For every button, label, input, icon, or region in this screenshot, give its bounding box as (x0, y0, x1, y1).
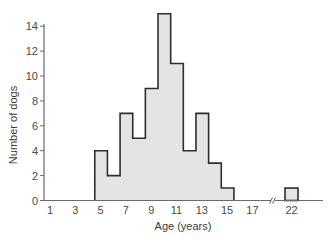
x-tick-label: 5 (98, 204, 104, 216)
x-tick-label: 22 (285, 204, 297, 216)
y-tick-label: 2 (32, 170, 38, 182)
x-tick-label: 1 (47, 204, 53, 216)
y-tick-label: 4 (32, 145, 38, 157)
y-tick-label: 0 (32, 195, 38, 207)
histogram-fill (95, 14, 234, 201)
y-tick-label: 6 (32, 120, 38, 132)
y-axis-ticks: 02468101214 (26, 20, 44, 206)
x-axis-title: Age (years) (155, 220, 212, 232)
x-tick-label: 11 (171, 204, 182, 216)
x-tick-label: 17 (246, 204, 258, 216)
x-tick-label: 3 (72, 204, 78, 216)
y-tick-label: 14 (26, 20, 38, 32)
histogram-bar-22 (285, 188, 298, 200)
y-tick-label: 12 (26, 45, 38, 57)
histogram-bars (95, 14, 298, 201)
x-tick-label: 13 (196, 204, 208, 216)
y-axis-title: Number of dogs (7, 85, 19, 164)
x-tick-label: 9 (148, 204, 154, 216)
x-tick-label: 7 (123, 204, 129, 216)
y-tick-label: 8 (32, 95, 38, 107)
x-axis-ticks: 135791113151722 (47, 204, 298, 216)
histogram-chart: 02468101214 135791113151722 Age (years) … (0, 0, 332, 244)
y-tick-label: 10 (26, 70, 38, 82)
x-tick-label: 15 (221, 204, 233, 216)
